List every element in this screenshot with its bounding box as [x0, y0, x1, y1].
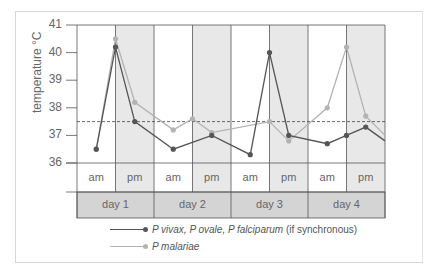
data-point — [113, 36, 118, 41]
data-point — [344, 44, 349, 49]
halfday-label: pm — [347, 171, 386, 183]
halfday-label: pm — [270, 171, 309, 183]
y-tick-label: 37 — [38, 127, 62, 141]
data-point — [248, 152, 253, 157]
data-point — [190, 116, 195, 121]
data-point — [363, 125, 368, 130]
y-tick-label: 40 — [38, 45, 62, 59]
data-point — [325, 105, 330, 110]
y-tick-label: 41 — [38, 17, 62, 31]
legend-line-light-icon — [110, 246, 146, 247]
legend-item-vivax: P vivax, P ovale, P falciparum (if synch… — [110, 221, 357, 238]
data-point — [325, 141, 330, 146]
y-tick-label: 39 — [38, 72, 62, 86]
day-label: day 2 — [154, 198, 231, 210]
data-point — [209, 133, 214, 138]
data-point — [113, 44, 118, 49]
y-tick-label: 38 — [38, 100, 62, 114]
data-point — [171, 127, 176, 132]
day-label: day 1 — [77, 198, 154, 210]
halfday-label: am — [77, 171, 116, 183]
legend: P vivax, P ovale, P falciparum (if synch… — [110, 221, 357, 255]
data-point — [344, 133, 349, 138]
data-point — [286, 133, 291, 138]
day-label: day 4 — [308, 198, 385, 210]
legend-item-malariae: P malariae — [110, 238, 357, 255]
data-point — [267, 119, 272, 124]
halfday-label: am — [231, 171, 270, 183]
day-label: day 3 — [231, 198, 308, 210]
y-tick-label: 36 — [38, 155, 62, 169]
data-point — [132, 100, 137, 105]
halfday-label: am — [154, 171, 193, 183]
legend-line-dark-icon — [110, 229, 146, 230]
halfday-label: pm — [116, 171, 155, 183]
halfday-label: am — [308, 171, 347, 183]
data-point — [286, 138, 291, 143]
data-point — [171, 147, 176, 152]
halfday-label: pm — [193, 171, 232, 183]
data-point — [94, 147, 99, 152]
data-point — [267, 50, 272, 55]
data-point — [363, 113, 368, 118]
data-point — [132, 119, 137, 124]
